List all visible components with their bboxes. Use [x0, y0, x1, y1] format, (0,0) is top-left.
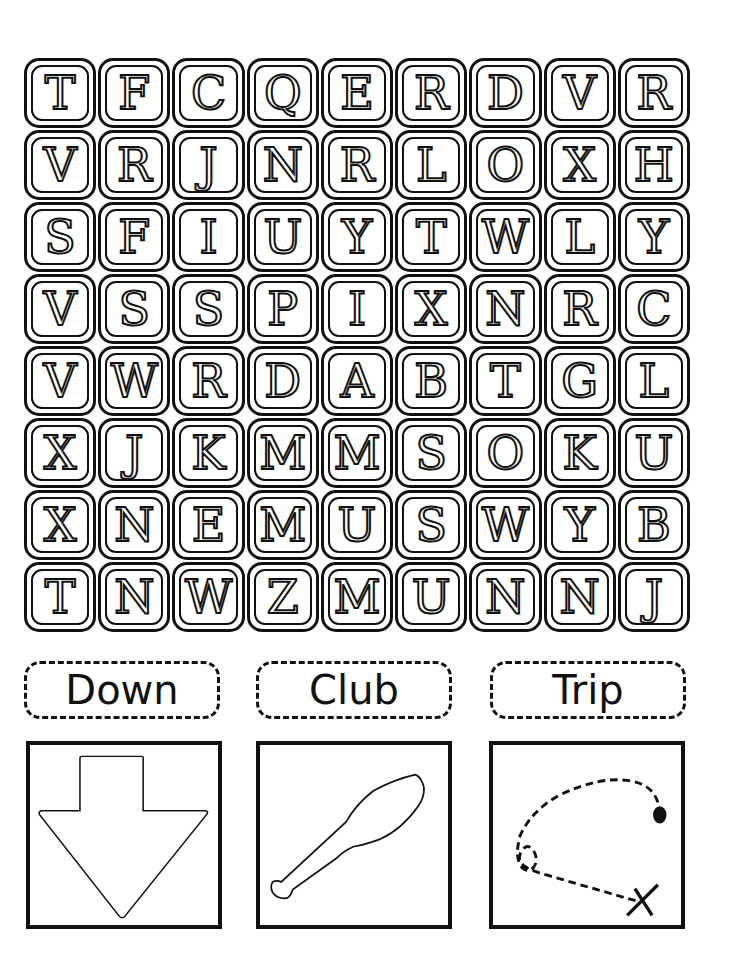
letter-tile-inner: V: [551, 65, 609, 121]
letter-tile[interactable]: O: [469, 418, 541, 488]
letter-tile[interactable]: E: [172, 490, 244, 560]
letter-tile[interactable]: D: [469, 58, 541, 128]
letter-tile[interactable]: S: [395, 418, 467, 488]
letter-tile[interactable]: N: [469, 562, 541, 632]
letter: C: [191, 70, 226, 116]
letter-tile[interactable]: L: [544, 202, 616, 272]
letter-tile[interactable]: K: [172, 418, 244, 488]
letter-tile[interactable]: V: [544, 58, 616, 128]
letter: Y: [564, 502, 594, 548]
letter-tile[interactable]: G: [544, 346, 616, 416]
letter-tile[interactable]: R: [98, 130, 170, 200]
letter-tile[interactable]: R: [172, 346, 244, 416]
letter-tile[interactable]: S: [98, 274, 170, 344]
letter-tile[interactable]: C: [618, 274, 690, 344]
letter-tile[interactable]: T: [469, 346, 541, 416]
letter-tile[interactable]: K: [544, 418, 616, 488]
letter-tile-inner: X: [31, 497, 89, 553]
letter-tile[interactable]: N: [98, 562, 170, 632]
letter-tile[interactable]: O: [469, 130, 541, 200]
letter-tile[interactable]: Y: [618, 202, 690, 272]
letter-tile[interactable]: M: [321, 562, 393, 632]
letter-tile-inner: D: [476, 65, 534, 121]
letter-tile[interactable]: N: [247, 130, 319, 200]
letter: R: [117, 142, 152, 188]
letter: W: [111, 358, 158, 404]
letter-tile[interactable]: S: [24, 202, 96, 272]
letter-tile[interactable]: W: [469, 202, 541, 272]
letter-tile[interactable]: X: [24, 418, 96, 488]
letter-tile[interactable]: T: [24, 58, 96, 128]
letter: F: [118, 70, 150, 116]
letter-tile[interactable]: T: [24, 562, 96, 632]
letter-tile[interactable]: U: [395, 562, 467, 632]
letter: W: [482, 502, 529, 548]
letter: T: [45, 574, 76, 620]
letter: U: [634, 430, 673, 476]
letter-tile[interactable]: H: [618, 130, 690, 200]
letter-tile[interactable]: Z: [247, 562, 319, 632]
letter-tile-inner: M: [328, 425, 386, 481]
letter: X: [44, 502, 77, 548]
letter: T: [416, 214, 447, 260]
letter: V: [563, 70, 596, 116]
letter-tile[interactable]: X: [544, 130, 616, 200]
letter-tile[interactable]: U: [618, 418, 690, 488]
letter-tile[interactable]: A: [321, 346, 393, 416]
letter-tile[interactable]: V: [24, 346, 96, 416]
letter-tile[interactable]: U: [321, 490, 393, 560]
letter-tile[interactable]: I: [321, 274, 393, 344]
letter: M: [259, 430, 306, 476]
letter-tile[interactable]: V: [24, 130, 96, 200]
letter: Z: [267, 574, 299, 620]
letter-tile[interactable]: W: [98, 346, 170, 416]
letter-tile[interactable]: Y: [321, 202, 393, 272]
letter-tile-inner: F: [105, 65, 163, 121]
letter: O: [487, 430, 525, 476]
letter-tile[interactable]: R: [395, 58, 467, 128]
letter-tile[interactable]: J: [98, 418, 170, 488]
letter-tile-inner: I: [179, 209, 237, 265]
letter-tile[interactable]: S: [172, 274, 244, 344]
letter-tile[interactable]: B: [395, 346, 467, 416]
letter-tile[interactable]: M: [247, 490, 319, 560]
letter-tile[interactable]: M: [247, 418, 319, 488]
letter-tile[interactable]: E: [321, 58, 393, 128]
letter-tile[interactable]: F: [98, 202, 170, 272]
letter: R: [191, 358, 226, 404]
down-arrow-icon: [30, 745, 218, 925]
letter-tile[interactable]: R: [618, 58, 690, 128]
letter-tile-inner: R: [179, 353, 237, 409]
letter: W: [482, 214, 529, 260]
letter-tile[interactable]: X: [395, 274, 467, 344]
letter-tile[interactable]: R: [544, 274, 616, 344]
letter-tile[interactable]: Q: [247, 58, 319, 128]
letter-tile[interactable]: S: [395, 490, 467, 560]
letter-tile-inner: C: [625, 281, 683, 337]
letter-tile[interactable]: Y: [544, 490, 616, 560]
letter-tile[interactable]: V: [24, 274, 96, 344]
letter: Y: [639, 214, 669, 260]
letter-tile[interactable]: I: [172, 202, 244, 272]
letter-tile[interactable]: B: [618, 490, 690, 560]
letter-tile[interactable]: R: [321, 130, 393, 200]
letter-tile[interactable]: C: [172, 58, 244, 128]
letter-tile[interactable]: D: [247, 346, 319, 416]
letter-tile[interactable]: N: [544, 562, 616, 632]
letter-tile[interactable]: L: [395, 130, 467, 200]
letter-tile[interactable]: W: [172, 562, 244, 632]
letter-tile[interactable]: N: [98, 490, 170, 560]
letter-tile[interactable]: J: [618, 562, 690, 632]
letter-tile[interactable]: J: [172, 130, 244, 200]
letter-tile[interactable]: X: [24, 490, 96, 560]
letter-tile[interactable]: N: [469, 274, 541, 344]
letter: S: [415, 430, 447, 476]
letter-tile[interactable]: F: [98, 58, 170, 128]
letter-tile[interactable]: P: [247, 274, 319, 344]
letter-tile[interactable]: T: [395, 202, 467, 272]
letter-tile[interactable]: M: [321, 418, 393, 488]
letter-tile-inner: J: [105, 425, 163, 481]
letter-tile[interactable]: L: [618, 346, 690, 416]
letter-tile[interactable]: U: [247, 202, 319, 272]
letter-tile[interactable]: W: [469, 490, 541, 560]
